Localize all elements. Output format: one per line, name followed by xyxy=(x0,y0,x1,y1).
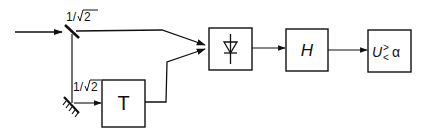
mirror-coefficient-label: 1/ 2 xyxy=(73,80,101,94)
svg-text:T: T xyxy=(117,92,129,114)
svg-text:U: U xyxy=(372,44,383,60)
block-diagram: 1/ 2 1/ 2 T xyxy=(0,0,426,130)
splitter-coefficient-label: 1/ 2 xyxy=(66,10,98,24)
delayed-path-line xyxy=(145,49,205,102)
svg-text:H: H xyxy=(301,41,314,60)
svg-text:<: < xyxy=(383,52,389,63)
delay-block: T xyxy=(102,80,145,127)
svg-text:α: α xyxy=(392,44,400,60)
decision-block: U > < α xyxy=(368,30,411,72)
filter-block: H xyxy=(286,29,328,71)
svg-text:2: 2 xyxy=(91,80,98,94)
svg-text:1/: 1/ xyxy=(66,10,77,24)
detector-block xyxy=(209,28,252,70)
direct-path-line xyxy=(76,30,205,45)
svg-text:2: 2 xyxy=(84,10,91,24)
svg-text:1/: 1/ xyxy=(73,80,84,94)
mirror xyxy=(63,97,79,117)
